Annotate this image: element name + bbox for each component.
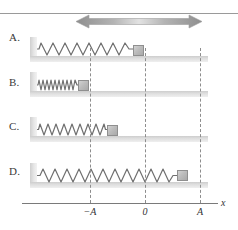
panel-c-spring [37,123,107,136]
panel-d-label: D. [9,165,20,177]
panel-b-wall [30,72,37,91]
axis-tick-minus-a: −A [84,206,97,217]
panel-a-floor [30,56,208,62]
x-axis-line [22,203,218,204]
dashed-line-plus-a [200,48,201,203]
axis-label-x: x [221,197,225,208]
panel-a-wall [30,37,37,56]
panel-a-spring [37,42,133,56]
panel-c-label: C. [9,120,20,132]
axis-tick-zero: 0 [143,206,148,217]
axis-tick-plus-a: A [197,206,203,217]
panel-d-block [177,170,188,181]
panel-a-label: A. [9,31,20,43]
panel-b-spring [37,79,78,91]
double-headed-motion-arrow [76,14,202,34]
panel-a-block [133,45,144,56]
physics-figure: A. B. C. D. [0,0,238,230]
panel-d-spring [37,168,177,183]
panel-c-wall [30,117,37,136]
dashed-line-zero [145,48,146,203]
panel-c-floor [30,136,208,142]
dashed-line-minus-a [90,48,91,203]
panel-b-block [78,80,89,91]
panel-b-floor [30,91,208,97]
panel-d-wall [30,163,37,182]
panel-b-label: B. [9,76,20,88]
panel-c-block [107,125,118,136]
